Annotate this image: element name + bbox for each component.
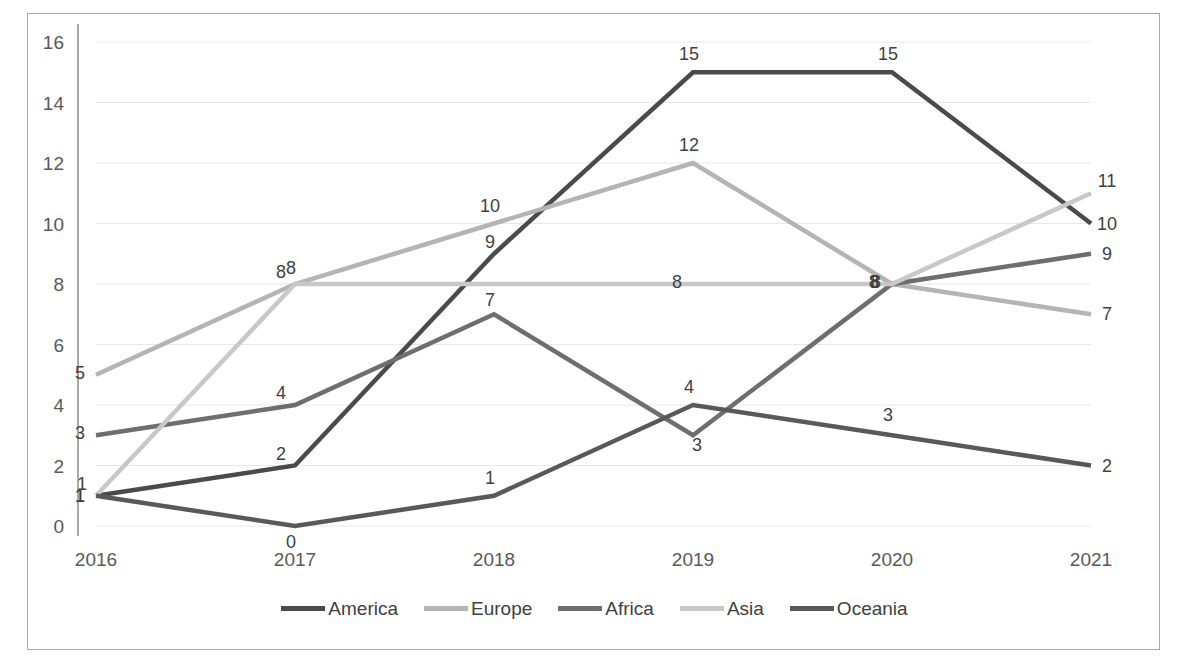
data-point-label: 3 <box>692 435 702 455</box>
legend-item-oceania[interactable]: Oceania <box>790 599 908 618</box>
legend-label: Africa <box>605 599 654 618</box>
x-axis-tick-label: 2016 <box>75 549 117 570</box>
legend-swatch-icon <box>680 606 724 611</box>
chart-legend: AmericaEuropeAfricaAsiaOceania <box>28 599 1161 618</box>
series-line-europe <box>96 163 1091 375</box>
y-axis-tick-label: 8 <box>53 274 64 295</box>
y-axis-tick-label: 2 <box>53 456 64 477</box>
x-axis-tick-label: 2021 <box>1070 549 1112 570</box>
y-axis-tick-label: 0 <box>53 516 64 537</box>
legend-label: Oceania <box>837 599 908 618</box>
data-point-label: 2 <box>276 444 286 464</box>
legend-swatch-icon <box>424 606 468 611</box>
data-point-label: 15 <box>878 44 898 64</box>
x-axis-tick-label: 2018 <box>473 549 515 570</box>
data-point-label: 9 <box>485 232 495 252</box>
data-point-label: 3 <box>883 405 893 425</box>
data-point-label: 9 <box>1102 244 1112 264</box>
line-chart-panel: 0246810121416201620172018201920202021129… <box>27 13 1160 650</box>
data-point-label: 4 <box>276 383 286 403</box>
data-point-label: 3 <box>75 423 85 443</box>
y-axis-tick-label: 4 <box>53 395 64 416</box>
legend-label: America <box>328 599 398 618</box>
legend-swatch-icon <box>790 606 834 611</box>
y-axis-tick-label: 6 <box>53 335 64 356</box>
legend-swatch-icon <box>281 606 325 611</box>
data-point-label: 8 <box>276 262 286 282</box>
legend-label: Asia <box>727 599 764 618</box>
chart-plot-area: 0246810121416201620172018201920202021129… <box>28 14 1159 594</box>
legend-item-asia[interactable]: Asia <box>680 599 764 618</box>
data-point-label: 7 <box>1102 304 1112 324</box>
x-axis-tick-label: 2020 <box>871 549 913 570</box>
y-axis-tick-label: 12 <box>43 153 64 174</box>
data-point-label: 11 <box>1098 171 1117 191</box>
data-point-label: 8 <box>286 258 296 278</box>
y-axis-tick-label: 16 <box>43 32 64 53</box>
data-point-label: 8 <box>672 272 682 292</box>
data-point-label: 10 <box>480 196 500 216</box>
legend-label: Europe <box>471 599 532 618</box>
data-point-label: 2 <box>1102 456 1112 476</box>
y-axis-tick-label: 14 <box>43 93 65 114</box>
legend-swatch-icon <box>558 606 602 611</box>
data-point-label: 0 <box>286 532 296 552</box>
data-point-label: 12 <box>679 135 699 155</box>
legend-item-africa[interactable]: Africa <box>558 599 654 618</box>
data-point-label: 8 <box>869 272 879 292</box>
data-point-label: 7 <box>485 290 495 310</box>
y-axis-tick-label: 10 <box>43 214 64 235</box>
data-point-label: 1 <box>485 468 495 488</box>
data-point-label: 1 <box>75 486 85 506</box>
x-axis-tick-label: 2017 <box>274 549 316 570</box>
x-axis-tick-label: 2019 <box>672 549 714 570</box>
data-point-label: 5 <box>75 363 85 383</box>
legend-item-america[interactable]: America <box>281 599 398 618</box>
legend-item-europe[interactable]: Europe <box>424 599 532 618</box>
data-point-label: 10 <box>1097 214 1117 234</box>
data-point-label: 15 <box>679 44 699 64</box>
data-point-label: 4 <box>684 377 694 397</box>
